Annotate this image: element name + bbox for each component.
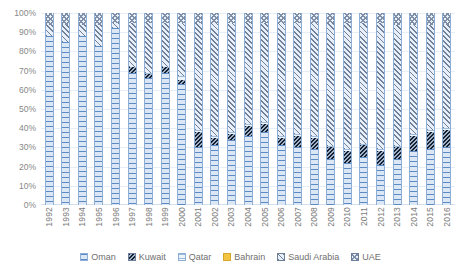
- column-segment[interactable]: [327, 13, 334, 23]
- column-segment[interactable]: [195, 23, 202, 131]
- column-segment[interactable]: [294, 147, 301, 205]
- column-segment[interactable]: [245, 126, 252, 136]
- column-segment[interactable]: [62, 25, 69, 42]
- column-segment[interactable]: [112, 13, 119, 23]
- column-segment[interactable]: [327, 23, 334, 146]
- column-segment[interactable]: [195, 147, 202, 205]
- column-segment[interactable]: [377, 165, 384, 205]
- column-segment[interactable]: [211, 145, 218, 205]
- column-segment[interactable]: [129, 23, 136, 67]
- stacked-column[interactable]: [277, 13, 286, 205]
- column-segment[interactable]: [79, 25, 86, 37]
- column-segment[interactable]: [327, 159, 334, 205]
- column-segment[interactable]: [360, 13, 367, 23]
- column-segment[interactable]: [112, 28, 119, 205]
- stacked-column[interactable]: [61, 13, 70, 205]
- column-segment[interactable]: [46, 13, 53, 25]
- column-segment[interactable]: [360, 157, 367, 205]
- column-segment[interactable]: [311, 138, 318, 150]
- column-segment[interactable]: [178, 84, 185, 205]
- stacked-column[interactable]: [161, 13, 170, 205]
- column-segment[interactable]: [394, 147, 401, 159]
- stacked-column[interactable]: [393, 13, 402, 205]
- column-segment[interactable]: [294, 23, 301, 134]
- stacked-column[interactable]: [426, 13, 435, 205]
- stacked-column[interactable]: [111, 13, 120, 205]
- stacked-column[interactable]: [244, 13, 253, 205]
- column-segment[interactable]: [211, 13, 218, 23]
- legend-item-uae[interactable]: UAE: [351, 252, 381, 262]
- legend-item-kuwait[interactable]: Kuwait: [128, 252, 166, 262]
- column-segment[interactable]: [278, 13, 285, 23]
- column-segment[interactable]: [278, 23, 285, 136]
- column-segment[interactable]: [95, 46, 102, 205]
- column-segment[interactable]: [327, 147, 334, 159]
- column-segment[interactable]: [377, 23, 384, 150]
- column-segment[interactable]: [394, 13, 401, 25]
- stacked-column[interactable]: [227, 13, 236, 205]
- column-segment[interactable]: [195, 132, 202, 147]
- column-segment[interactable]: [228, 23, 235, 132]
- column-segment[interactable]: [394, 25, 401, 146]
- column-segment[interactable]: [410, 136, 417, 151]
- column-segment[interactable]: [344, 13, 351, 23]
- column-segment[interactable]: [344, 23, 351, 150]
- stacked-column[interactable]: [210, 13, 219, 205]
- column-segment[interactable]: [245, 136, 252, 205]
- column-segment[interactable]: [443, 25, 450, 129]
- column-segment[interactable]: [162, 13, 169, 23]
- stacked-column[interactable]: [78, 13, 87, 205]
- column-segment[interactable]: [261, 13, 268, 23]
- column-segment[interactable]: [145, 78, 152, 205]
- column-segment[interactable]: [443, 13, 450, 25]
- stacked-column[interactable]: [144, 13, 153, 205]
- stacked-column[interactable]: [376, 13, 385, 205]
- column-segment[interactable]: [162, 23, 169, 67]
- column-segment[interactable]: [427, 132, 434, 149]
- column-segment[interactable]: [211, 138, 218, 146]
- column-segment[interactable]: [162, 73, 169, 205]
- stacked-column[interactable]: [442, 13, 451, 205]
- column-segment[interactable]: [79, 36, 86, 205]
- column-segment[interactable]: [410, 25, 417, 134]
- column-segment[interactable]: [443, 147, 450, 205]
- column-segment[interactable]: [129, 13, 136, 23]
- stacked-column[interactable]: [310, 13, 319, 205]
- stacked-column[interactable]: [45, 13, 54, 205]
- column-segment[interactable]: [178, 13, 185, 23]
- stacked-column[interactable]: [260, 13, 269, 205]
- column-segment[interactable]: [344, 163, 351, 205]
- column-segment[interactable]: [145, 23, 152, 73]
- column-segment[interactable]: [195, 13, 202, 23]
- column-segment[interactable]: [427, 149, 434, 205]
- column-segment[interactable]: [394, 159, 401, 205]
- stacked-column[interactable]: [326, 13, 335, 205]
- legend-item-qatar[interactable]: Qatar: [178, 252, 212, 262]
- stacked-column[interactable]: [343, 13, 352, 205]
- column-segment[interactable]: [62, 42, 69, 205]
- column-segment[interactable]: [311, 149, 318, 205]
- stacked-column[interactable]: [293, 13, 302, 205]
- column-segment[interactable]: [294, 13, 301, 23]
- column-segment[interactable]: [245, 23, 252, 125]
- stacked-column[interactable]: [409, 13, 418, 205]
- stacked-column[interactable]: [94, 13, 103, 205]
- column-segment[interactable]: [62, 13, 69, 25]
- column-segment[interactable]: [427, 13, 434, 25]
- stacked-column[interactable]: [177, 13, 186, 205]
- column-segment[interactable]: [95, 13, 102, 25]
- column-segment[interactable]: [360, 23, 367, 144]
- column-segment[interactable]: [228, 140, 235, 205]
- column-segment[interactable]: [211, 23, 218, 136]
- stacked-column[interactable]: [128, 13, 137, 205]
- column-segment[interactable]: [228, 13, 235, 23]
- legend-item-saudi[interactable]: Saudi Arabia: [277, 252, 339, 262]
- column-segment[interactable]: [344, 151, 351, 163]
- column-segment[interactable]: [294, 136, 301, 148]
- column-segment[interactable]: [443, 130, 450, 147]
- column-segment[interactable]: [129, 73, 136, 205]
- column-segment[interactable]: [178, 23, 185, 77]
- column-segment[interactable]: [360, 145, 367, 157]
- column-segment[interactable]: [410, 13, 417, 25]
- column-segment[interactable]: [311, 13, 318, 23]
